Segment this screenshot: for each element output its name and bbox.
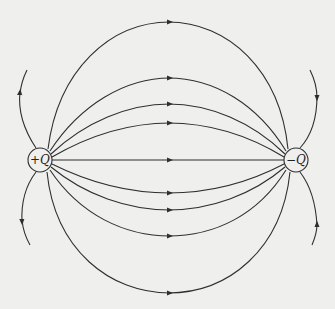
field-line-top-3-b — [168, 104, 285, 154]
positive-charge-label: +Q — [27, 153, 53, 167]
field-line-top-outer-b — [168, 22, 288, 149]
negative-charge-sign: − — [286, 153, 296, 167]
connecting-field-lines — [47, 22, 290, 293]
field-line-bottom-3-b — [168, 167, 285, 210]
open-field-lines — [20, 70, 317, 245]
field-line-bottom-3 — [51, 167, 170, 210]
field-line-bottom-inner — [52, 164, 170, 193]
field-line-right-lower-tail — [300, 172, 317, 226]
field-line-left-lower-tail — [22, 220, 30, 245]
field-line-left-lower — [22, 172, 36, 222]
negative-charge-label: −Q — [283, 153, 309, 167]
field-line-left-upper — [20, 92, 36, 148]
field-line-right-upper — [310, 70, 317, 98]
positive-charge-symbol: Q — [40, 153, 50, 167]
field-line-top-inner — [52, 123, 170, 157]
field-line-top-3 — [51, 104, 170, 154]
field-line-bottom-inner-b — [168, 164, 284, 193]
field-line-top-inner-b — [168, 123, 284, 157]
field-line-right-lower — [312, 224, 317, 245]
positive-charge-sign: + — [30, 153, 40, 167]
field-line-right-upper-tail — [300, 96, 317, 148]
field-line-left-upper-tail — [20, 70, 27, 94]
negative-charge-symbol: Q — [296, 153, 306, 167]
